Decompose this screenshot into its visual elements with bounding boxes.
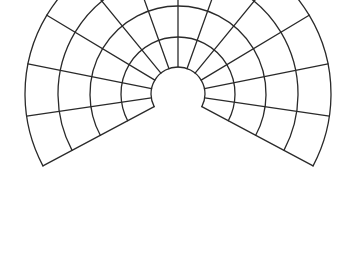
meridian-line	[27, 98, 152, 116]
graticule-svg	[0, 0, 348, 257]
meridians-group	[27, 0, 330, 166]
parallel-arc	[151, 67, 205, 107]
graticule-diagram	[0, 0, 348, 257]
meridian-line	[205, 98, 330, 116]
